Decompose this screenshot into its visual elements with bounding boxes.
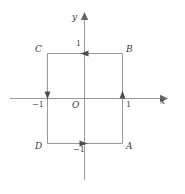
vertex-label-a: A: [126, 142, 133, 151]
y-tick-label-positive-one: 1: [76, 40, 81, 48]
edge-arrow-up-right-side: [120, 91, 126, 99]
x-tick-label-positive-one: 1: [126, 101, 131, 109]
y-axis-arrow-icon: [81, 12, 88, 20]
vertex-label-b: B: [126, 45, 133, 54]
vertex-label-c: C: [35, 45, 42, 54]
figure-canvas: [0, 0, 185, 194]
y-axis-label: y: [72, 13, 77, 22]
origin-label: O: [72, 101, 79, 110]
vertex-label-d: D: [35, 142, 42, 151]
x-tick-label-negative-one: −1: [32, 101, 44, 109]
coordinate-figure: x y O 1 −1 1 −1 A B C D: [0, 0, 185, 194]
x-axis-label: x: [160, 97, 165, 106]
y-tick-label-negative-one: −1: [73, 146, 85, 154]
